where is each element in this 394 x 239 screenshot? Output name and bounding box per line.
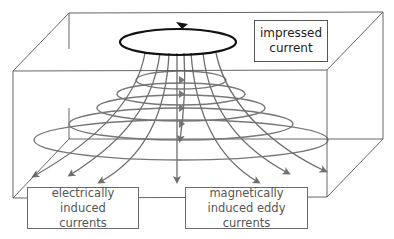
impressed-current-loop	[120, 22, 236, 55]
impressed-current-line2: current	[255, 41, 327, 56]
impressed-current-label: impressed current	[254, 20, 328, 62]
electrically-induced-line2: currents	[28, 216, 138, 231]
electrically-induced-line1: electrically induced	[28, 186, 138, 216]
magnetically-induced-label: magnetically induced eddy currents	[185, 187, 308, 229]
impressed-current-line1: impressed	[255, 26, 327, 41]
magnetically-induced-line2: induced eddy currents	[186, 201, 307, 231]
electrically-induced-label: electrically induced currents	[27, 187, 139, 229]
magnetically-induced-line1: magnetically	[186, 186, 307, 201]
